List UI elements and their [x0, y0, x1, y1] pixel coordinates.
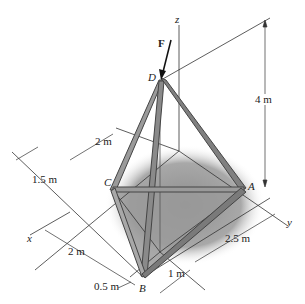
z-axis-label: z: [175, 14, 179, 25]
dim-0-5m: 0.5 m: [94, 281, 119, 292]
truss-drawing: [0, 0, 305, 304]
point-a-label: A: [248, 181, 255, 192]
point-c-label: C: [104, 177, 111, 188]
dim-2m-top: 2 m: [95, 136, 112, 147]
member-CA: [113, 187, 244, 192]
dim-2-5m: 2.5 m: [225, 233, 250, 244]
y-axis-label: y: [287, 217, 292, 228]
point-d-label: D: [148, 72, 156, 83]
dim-1m: 1 m: [168, 268, 185, 279]
dim-1-5m: 1.5 m: [32, 174, 57, 185]
dim-2m-x: 2 m: [68, 246, 85, 257]
force-label: F: [158, 38, 165, 49]
space-truss-diagram: z F D 4 m 2 m 1.5 m C A y x 2.5 m 2 m 1 …: [0, 0, 305, 304]
dim-height: 4 m: [255, 94, 272, 105]
point-b-label: B: [139, 283, 146, 294]
x-axis-label: x: [27, 233, 32, 244]
